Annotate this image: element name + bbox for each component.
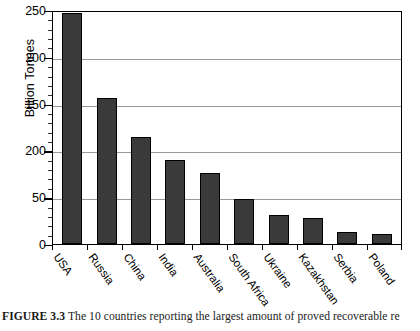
y-tick-label: 200	[12, 145, 46, 158]
y-tick-major	[44, 151, 52, 152]
x-axis-tick-labels: USARussiaChinaIndiaAustraliaSouth Africa…	[0, 245, 420, 307]
bar-slot	[330, 12, 364, 244]
bar	[62, 13, 82, 244]
bar-slot	[124, 12, 158, 244]
bar-slot	[89, 12, 123, 244]
bar	[372, 234, 392, 244]
y-tick-label: 250	[12, 5, 46, 18]
x-tick-label: China	[121, 251, 148, 282]
bar	[165, 160, 185, 244]
x-tick-label: Poland	[366, 251, 397, 287]
bar-slot	[193, 12, 227, 244]
y-axis-ticks	[44, 11, 52, 245]
y-tick-label: 200	[12, 52, 46, 65]
bar-slot	[261, 12, 295, 244]
x-tick-label: USA	[51, 251, 75, 277]
bar-slot	[227, 12, 261, 244]
figure-caption: FIGURE 3.3 The 10 countries reporting th…	[2, 310, 420, 330]
y-tick-major	[44, 105, 52, 106]
bar	[337, 232, 357, 244]
bar	[303, 218, 323, 244]
bar-series	[53, 12, 401, 244]
figure-caption-label: FIGURE 3.3	[2, 310, 65, 323]
bar	[269, 215, 289, 244]
y-tick-major	[44, 11, 52, 12]
x-tick-label: Australia	[191, 251, 227, 294]
y-tick-major	[44, 198, 52, 199]
bar-slot	[55, 12, 89, 244]
x-tick-label: Russia	[86, 251, 116, 286]
bar-slot	[158, 12, 192, 244]
x-tick-label: Serbia	[331, 251, 360, 285]
bar	[234, 199, 254, 244]
y-tick-label: 150	[12, 98, 46, 111]
bar-slot	[365, 12, 399, 244]
y-tick-major	[44, 58, 52, 59]
plot-area	[52, 11, 402, 245]
bar-slot	[296, 12, 330, 244]
x-tick-label: India	[156, 251, 180, 278]
figure-caption-text: The 10 countries reporting the largest a…	[68, 310, 400, 323]
bar	[131, 137, 151, 244]
bar	[200, 173, 220, 244]
bar	[97, 98, 117, 244]
figure-3-3: Billion Tonnes 250 200 150 200 50 0 USAR…	[0, 0, 420, 331]
x-tick-label: Ukraine	[261, 251, 294, 290]
y-tick-label: 50	[12, 192, 46, 205]
